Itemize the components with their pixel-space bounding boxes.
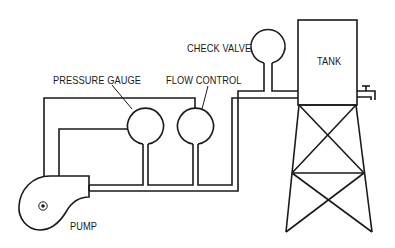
pump-label: PUMP xyxy=(70,220,97,232)
flow-control-label: FLOW CONTROL xyxy=(166,74,242,86)
pipe-inner-loop xyxy=(59,129,128,176)
tank-tower xyxy=(286,105,372,232)
pressure-gauge-label: PRESSURE GAUGE xyxy=(53,74,141,86)
hydraulic-diagram xyxy=(0,0,395,248)
flow-control xyxy=(178,108,214,144)
check-valve xyxy=(251,29,285,63)
tank-label: TANK xyxy=(317,55,341,67)
faucet-icon xyxy=(357,86,375,100)
pressure-gauge-leader xyxy=(112,85,132,109)
pipe-outer-loop xyxy=(44,98,195,176)
pressure-gauge xyxy=(128,108,164,144)
pump-shaft-icon xyxy=(39,202,47,210)
check-valve-label: CHECK VALVE xyxy=(187,42,251,54)
flow-control-leader xyxy=(202,86,208,109)
